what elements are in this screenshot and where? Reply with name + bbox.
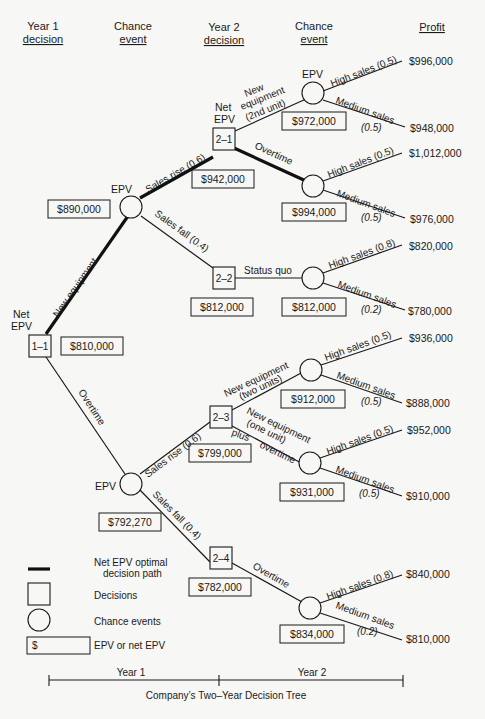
column-headers: Year 1 decision Chance event Year 2 deci… (23, 20, 445, 46)
profit-value: $996,000 (409, 55, 453, 67)
timeline-year1: Year 1 (117, 667, 146, 678)
header-profit: Profit (419, 21, 445, 33)
profit-value: $780,000 (408, 305, 452, 317)
header-chance2-line2: event (301, 33, 328, 45)
label-22-status-quo: Status quo (244, 265, 292, 276)
high-sales-label: High sales (0.5) (326, 145, 395, 180)
chance-b-epv-label: EPV (95, 480, 116, 492)
legend-dollar: $ (32, 640, 38, 651)
outcome-epv-label: EPV (302, 68, 323, 80)
profit-value: $1,012,000 (409, 147, 462, 159)
epv-value: $890,000 (57, 203, 101, 215)
decision-node-2-4: 2–4 $782,000 (189, 547, 251, 596)
profit-value: $810,000 (406, 633, 450, 645)
decision-tree-diagram: Year 1 decision Chance event Year 2 deci… (0, 0, 485, 719)
header-chance1-line2: event (120, 33, 147, 45)
profit-value: $976,000 (410, 213, 454, 225)
decision-node-1-1: Net EPV 1–1 $810,000 (11, 308, 123, 357)
profit-value: $936,000 (409, 332, 453, 344)
header-chance2-line1: Chance (295, 20, 333, 32)
medium-sales-prob: (0.2) (361, 304, 382, 315)
epv-value: $812,000 (200, 301, 244, 313)
label-23-plus: plus (230, 427, 251, 444)
high-sales-label: High sales (0.5) (325, 423, 395, 457)
profit-value: $948,000 (410, 122, 454, 134)
epv-value: $792,270 (108, 516, 152, 528)
chance-node-outcome-4: $912,000 (281, 359, 345, 408)
chance-circle-icon (302, 267, 324, 289)
root-epv-label: EPV (11, 320, 32, 332)
timeline: Year 1 Year 2 Company’s Two–Year Decisio… (49, 667, 403, 701)
profit-value: $910,000 (406, 490, 450, 502)
decision-id: 1–1 (32, 341, 49, 352)
edge-overtime (46, 357, 127, 477)
chance-node-outcome-6: $834,000 (280, 597, 344, 643)
decision-id: 2–3 (213, 412, 230, 423)
medium-sales-prob: (0.2) (357, 626, 378, 637)
legend-path-line2: decision path (103, 568, 162, 579)
label-21-overtime: Overtime (253, 140, 295, 167)
timeline-year2: Year 2 (298, 667, 327, 678)
header-chance1-line1: Chance (114, 20, 152, 32)
epv-value: $810,000 (70, 340, 114, 352)
d21-epv-label: EPV (214, 113, 235, 125)
header-year1-line2: decision (23, 33, 63, 45)
legend-circle-icon (28, 609, 50, 631)
profit-value: $888,000 (406, 397, 450, 409)
medium-sales-prob: (0.5) (361, 122, 382, 133)
medium-sales-prob: (0.5) (361, 396, 382, 407)
high-sales-label: High sales (0.8) (327, 237, 397, 271)
header-year2-line1: Year 2 (208, 21, 239, 33)
legend-decisions: Decisions (94, 590, 137, 601)
epv-value: $812,000 (292, 301, 336, 313)
decision-id: 2–4 (213, 553, 230, 564)
chance-circle-icon (299, 452, 321, 474)
root-net-label: Net (13, 308, 29, 320)
profit-value: $820,000 (409, 240, 453, 252)
profit-value: $840,000 (406, 568, 450, 580)
epv-value: $834,000 (290, 628, 334, 640)
epv-value: $972,000 (292, 115, 336, 127)
chance-a-epv-label: EPV (111, 183, 132, 195)
medium-sales-prob: (0.5) (361, 212, 382, 223)
medium-sales-prob: (0.5) (359, 488, 380, 499)
chance-circle-icon (299, 597, 321, 619)
epv-value: $931,000 (290, 486, 334, 498)
high-sales-label: High sales (0.5) (323, 329, 393, 363)
header-year2-line2: decision (204, 34, 244, 46)
epv-value: $994,000 (292, 206, 336, 218)
chance-circle-icon (120, 473, 142, 495)
legend-epv: EPV or net EPV (94, 640, 165, 651)
label-overtime: Overtime (76, 387, 108, 427)
chance-circle-icon (302, 82, 324, 104)
legend-square-icon (28, 583, 50, 605)
epv-value: $799,000 (198, 447, 242, 459)
label-24-overtime: Overtime (251, 560, 292, 590)
profit-value: $952,000 (407, 424, 451, 436)
epv-value: $782,000 (198, 581, 242, 593)
outcome-1-labels: High sales (0.5) Medium sales (0.5) $996… (329, 54, 454, 134)
header-year1-line1: Year 1 (27, 20, 58, 32)
chance-circle-icon (300, 359, 322, 381)
chance-circle-icon (302, 175, 324, 197)
epv-value: $912,000 (291, 393, 335, 405)
label-23-overtime: overtime (258, 439, 298, 466)
high-sales-label: High sales (0.8) (325, 568, 395, 602)
epv-value: $942,000 (201, 173, 245, 185)
high-sales-label: High sales (0.5) (329, 54, 398, 89)
chance-circle-icon (120, 196, 142, 218)
diagram-caption: Company’s Two–Year Decision Tree (146, 690, 307, 701)
d21-net-label: Net (215, 101, 231, 113)
legend-path-line1: Net EPV optimal (94, 557, 167, 568)
legend: Net EPV optimal decision path Decisions … (27, 557, 167, 654)
decision-id: 2–1 (216, 134, 233, 145)
chance-node-a: EPV $890,000 (48, 183, 142, 218)
label-new-equipment: New equipment (51, 256, 100, 319)
legend-chance: Chance events (94, 616, 161, 627)
decision-id: 2–2 (216, 273, 233, 284)
